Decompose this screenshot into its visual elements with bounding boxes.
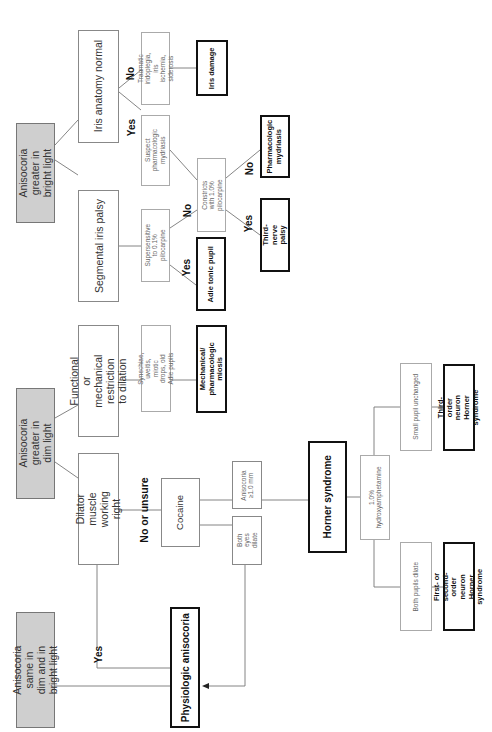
root-dim-light: Anisocoria greater in dim light [16, 388, 55, 499]
node-label: Small pupil unchanged [412, 374, 419, 440]
outcome-pharmacologic-mydriasis: Pharmacologic mydriasis [260, 115, 290, 178]
node-label: Synechiae, uveitis, miotic drops, old Ad… [137, 352, 174, 384]
node-supersensitive: Supersensitive to 0.1% pilocarpine [141, 209, 170, 282]
edge-label-no: No [182, 204, 193, 217]
outcome-mechanical-miosis: Mechanical/ pharmacologic miosis [196, 325, 227, 413]
node-label: Functional or mechanical restriction to … [68, 354, 128, 407]
outcome-third-order-horner: Third-order neuron Horner syndrome [443, 364, 475, 451]
node-label: Supersensitive to 0.1% pilocarpine [144, 224, 166, 267]
outcome-physiologic-anisocoria: Physiologic anisocoria [170, 607, 200, 728]
outcome-label: Third-nerve palsy [262, 222, 288, 248]
node-label: Dilator muscle working right [74, 490, 122, 529]
node-iris-anatomy-normal: Iris anatomy normal [78, 30, 119, 143]
outcome-first-second-order-horner: First- or second-order neuron Horner syn… [443, 542, 475, 631]
edge-label-yes: Yes [126, 119, 137, 136]
node-label: 1.0% hydroxyamphetamine [368, 466, 383, 528]
node-segmental-iris-palsy: Segmental iris palsy [78, 190, 119, 302]
outcome-label: Adie tonic pupil [207, 246, 216, 302]
node-label: Both pupils dilate [412, 562, 419, 612]
node-constricts: Constricts with 1.0% pilocarpine [197, 158, 226, 232]
node-label: Suspect pharmacologic mydriasis [144, 129, 166, 171]
root-same-light: Anisocoria same in dim and in bright lig… [16, 612, 55, 728]
outcome-iris-damage: Iris damage [196, 40, 228, 96]
node-suspect-pharmacologic: Suspect pharmacologic mydriasis [141, 115, 170, 186]
node-dilator-muscle: Dilator muscle working right [78, 453, 119, 565]
edge-label-yes: Yes [243, 215, 254, 232]
node-small-pupil-unchanged: Small pupil unchanged [400, 363, 432, 451]
root-dim-label: Anisocoria greater in dim light [17, 419, 53, 468]
outcome-label: Third-order neuron Horner syndrome [437, 390, 480, 426]
edge-label-no: No [244, 162, 255, 175]
flowchart-canvas: Anisocoria greater in bright light Aniso… [0, 0, 492, 732]
node-functional-restriction: Functional or mechanical restriction to … [78, 325, 119, 437]
edge-label-yes: Yes [181, 259, 192, 276]
node-hydroxyamphetamine: 1.0% hydroxyamphetamine [360, 455, 390, 540]
node-synechiae: Synechiae, uveitis, miotic drops, old Ad… [141, 325, 171, 412]
edge-label-no: No [125, 67, 136, 80]
outcome-third-nerve-palsy: Third-nerve palsy [260, 198, 290, 272]
node-label: Iris anatomy normal [92, 40, 104, 132]
root-same-label: Anisocoria same in dim and in bright lig… [11, 645, 59, 694]
outcome-label: Mechanical/ pharmacologic miosis [199, 342, 225, 395]
outcome-label: Physiologic anisocoria [179, 613, 191, 722]
edge-label-no-or-unsure: No or unsure [138, 477, 150, 542]
edge-label-yes: Yes [93, 646, 104, 663]
node-both-pupils-dilate: Both pupils dilate [400, 542, 432, 631]
node-label: Traumatic iridoplegia, iris ischemia, si… [137, 53, 174, 84]
node-label: Anisocoria ≥1.0 mm [240, 470, 255, 500]
arrowhead-icon [202, 683, 209, 689]
node-label: Constricts with 1.0% pilocarpine [200, 179, 222, 210]
node-traumatic: Traumatic iridoplegia, iris ischemia, si… [141, 32, 170, 105]
node-both-eyes-dilate: Both eyes dilate [232, 516, 262, 565]
root-bright-light: Anisocoria greater in bright light [16, 123, 55, 223]
outcome-label: Pharmacologic mydriasis [266, 120, 283, 174]
node-label: Both eyes dilate [236, 527, 258, 555]
outcome-label: Iris damage [208, 47, 217, 89]
outcome-adie-tonic-pupil: Adie tonic pupil [196, 237, 226, 311]
node-label: Segmental iris palsy [92, 199, 104, 293]
outcome-label: First- or second-order neuron Horner syn… [433, 569, 485, 605]
node-anisocoria-1mm: Anisocoria ≥1.0 mm [232, 461, 262, 509]
outcome-horner-syndrome: Horner syndrome [308, 441, 347, 553]
node-cocaine: Cocaine [161, 478, 200, 547]
node-label: Cocaine [175, 495, 186, 530]
outcome-label: Horner syndrome [322, 455, 334, 538]
root-bright-label: Anisocoria greater in bright light [17, 148, 53, 197]
